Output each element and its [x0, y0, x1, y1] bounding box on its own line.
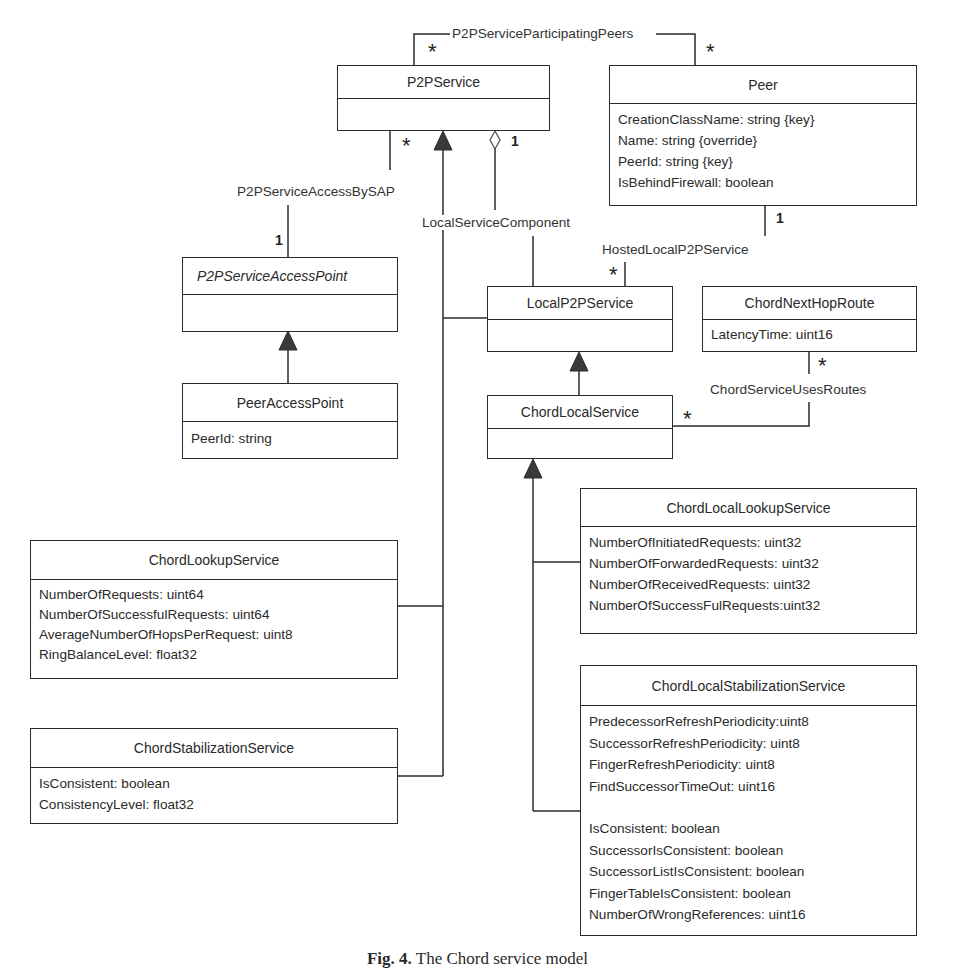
- mult-hosted-local-a: 1: [776, 210, 784, 226]
- attribute: NumberOfForwardedRequests: uint32: [589, 553, 908, 574]
- attribute: NumberOfWrongReferences: uint16: [589, 904, 908, 926]
- class-name: ChordLocalService: [488, 396, 672, 429]
- class-p2pserviceaccesspoint: P2PServiceAccessPoint: [182, 257, 398, 332]
- attribute: FingerRefreshPeriodicity: uint8: [589, 754, 908, 776]
- attribute: NumberOfSuccessFulRequests:uint32: [589, 595, 908, 616]
- class-p2pservice: P2PService: [337, 65, 550, 131]
- attribute: NumberOfInitiatedRequests: uint32: [589, 532, 908, 553]
- attribute: FingerTableIsConsistent: boolean: [589, 883, 908, 905]
- attribute: Name: string {override}: [618, 130, 908, 151]
- inheritance-arrow-localp2pservice: [570, 352, 588, 371]
- assoc-label-hosted-local: HostedLocalP2PService: [602, 242, 749, 257]
- attribute: IsConsistent: boolean: [589, 818, 908, 840]
- class-name: ChordLookupService: [31, 541, 397, 580]
- caption-prefix: Fig. 4.: [367, 949, 412, 968]
- attribute: PredecessorRefreshPeriodicity:uint8: [589, 711, 908, 733]
- aggregation-diamond: [490, 131, 500, 149]
- attribute: SuccessorListIsConsistent: boolean: [589, 861, 908, 883]
- mult-hosted-local-b: *: [609, 264, 618, 286]
- inheritance-arrow-accesspoint: [279, 331, 297, 350]
- class-chordlookupservice: ChordLookupService NumberOfRequests: uin…: [30, 540, 398, 679]
- inheritance-arrow-p2pservice: [434, 131, 452, 150]
- class-localp2pservice: LocalP2PService: [487, 286, 673, 352]
- class-name: ChordStabilizationService: [31, 729, 397, 768]
- class-name: ChordNextHopRoute: [703, 287, 916, 320]
- mult-participating-b: *: [706, 41, 715, 63]
- mult-participating-a: *: [428, 41, 437, 63]
- attribute: CreationClassName: string {key}: [618, 109, 908, 130]
- class-name: P2PService: [338, 66, 549, 99]
- class-name: PeerAccessPoint: [183, 384, 397, 422]
- attribute: NumberOfReceivedRequests: uint32: [589, 574, 908, 595]
- class-name: ChordLocalStabilizationService: [581, 666, 916, 706]
- attribute: IsBehindFirewall: boolean: [618, 172, 908, 193]
- attribute: LatencyTime: uint16: [711, 324, 908, 345]
- mult-access-by-sap-b: 1: [275, 232, 283, 248]
- assoc-label-uses-routes: ChordServiceUsesRoutes: [710, 382, 866, 397]
- attribute: IsConsistent: boolean: [39, 773, 389, 794]
- mult-uses-routes-a: *: [818, 355, 827, 377]
- assoc-label-participating-peers: P2PServiceParticipatingPeers: [452, 26, 633, 41]
- attribute: FindSuccessorTimeOut: uint16: [589, 776, 908, 798]
- attribute: PeerId: string {key}: [618, 151, 908, 172]
- mult-access-by-sap-a: *: [402, 135, 411, 157]
- caption-text: The Chord service model: [416, 949, 588, 968]
- class-name: Peer: [610, 66, 916, 104]
- class-chordnexthoproute: ChordNextHopRoute LatencyTime: uint16: [702, 286, 917, 352]
- class-chordlocallookupservice: ChordLocalLookupService NumberOfInitiate…: [580, 488, 917, 634]
- assoc-label-access-by-sap: P2PServiceAccessBySAP: [237, 184, 395, 199]
- attribute: ConsistencyLevel: float32: [39, 794, 389, 815]
- class-chordstabilizationservice: ChordStabilizationService IsConsistent: …: [30, 728, 398, 824]
- class-peer: Peer CreationClassName: string {key} Nam…: [609, 65, 917, 206]
- class-name: ChordLocalLookupService: [581, 489, 916, 527]
- class-chordlocalstabilizationservice: ChordLocalStabilizationService Predecess…: [580, 665, 917, 936]
- attribute: RingBalanceLevel: float32: [39, 645, 389, 665]
- attribute: SuccessorIsConsistent: boolean: [589, 840, 908, 862]
- class-name: LocalP2PService: [488, 287, 672, 320]
- attribute: NumberOfSuccessfulRequests: uint64: [39, 605, 389, 625]
- class-chordlocalservice: ChordLocalService: [487, 395, 673, 459]
- attribute: PeerId: string: [191, 428, 389, 449]
- attribute: NumberOfRequests: uint64: [39, 585, 389, 605]
- attribute: SuccessorRefreshPeriodicity: uint8: [589, 733, 908, 755]
- mult-uses-routes-b: *: [683, 408, 692, 430]
- class-peeraccesspoint: PeerAccessPoint PeerId: string: [182, 383, 398, 459]
- mult-local-service-component: 1: [511, 133, 519, 149]
- assoc-label-local-service-component: LocalServiceComponent: [422, 215, 570, 230]
- figure-caption: Fig. 4. The Chord service model: [0, 949, 955, 969]
- attribute-spacer: [589, 797, 908, 818]
- class-name: P2PServiceAccessPoint: [183, 258, 397, 295]
- inheritance-arrow-chordlocalservice: [524, 459, 542, 478]
- attribute: AverageNumberOfHopsPerRequest: uint8: [39, 625, 389, 645]
